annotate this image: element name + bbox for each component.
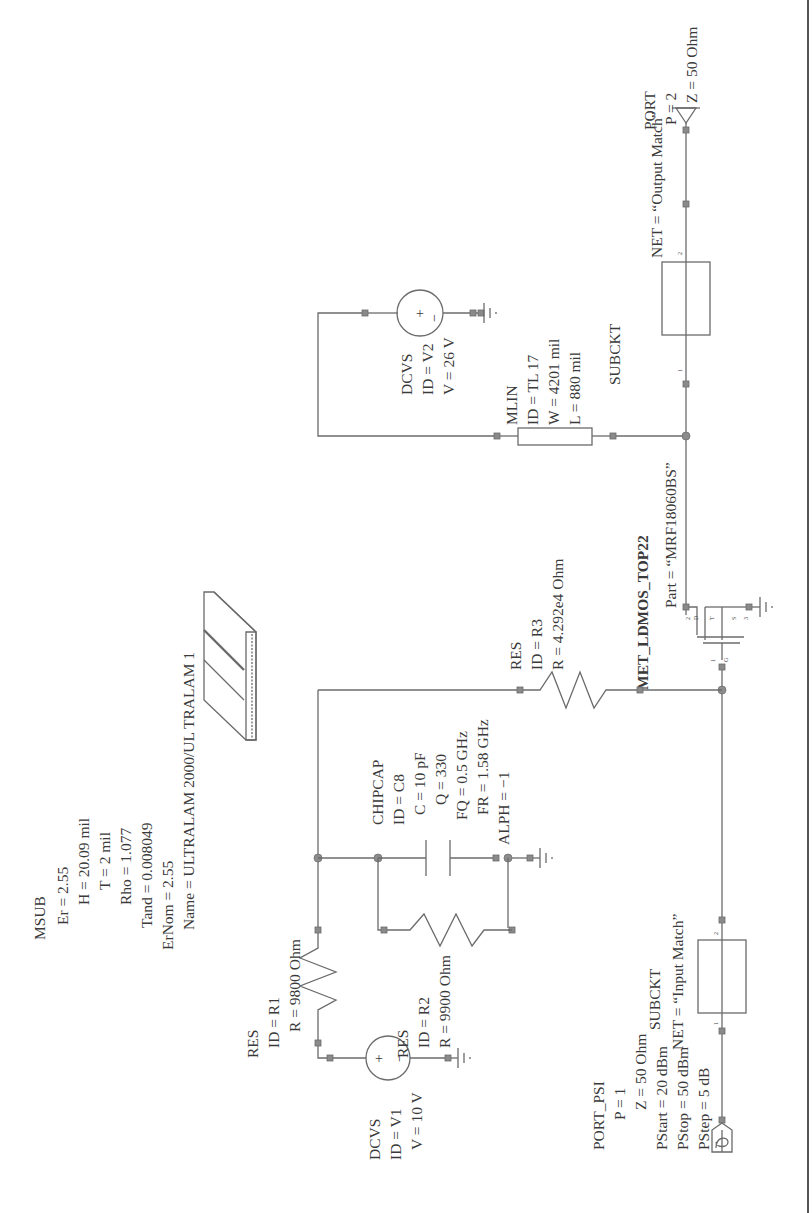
mlin-label: MLIN ID = TL 17 W = 4201 mil L = 880 mil [503,339,583,425]
svg-text:ID = R1: ID = R1 [265,997,282,1048]
msub-rho: Rho = 1.077 [117,828,134,905]
svg-text:S: S [731,617,737,620]
svg-text:ID = V1: ID = V1 [387,1108,404,1160]
svg-text:R = 9800 Ohm: R = 9800 Ohm [286,939,303,1032]
res-r3-label: RES ID = R3 R = 4.292e4 Ohm [507,559,566,670]
svg-text:RES: RES [244,1030,261,1058]
svg-text:MET_LDMOS_TOP22: MET_LDMOS_TOP22 [634,535,651,690]
schematic-canvas: MSUB Er = 2.55 H = 20.09 mil T = 2 mil R… [0,0,812,1213]
res-r2-label: RES ID = R2 R = 9900 Ohm [394,955,453,1058]
port-psi-symbol[interactable] [712,1123,732,1152]
msub-h: H = 20.09 mil [75,818,92,905]
res-r2-symbol[interactable] [387,914,512,946]
svg-text:DCVS: DCVS [366,1119,383,1160]
svg-text:2: 2 [677,252,683,255]
svg-text:Z = 50 Ohm: Z = 50 Ohm [683,27,700,103]
svg-text:Q = 330: Q = 330 [432,754,449,805]
res-r1-label: RES ID = R1 R = 9800 Ohm [244,939,303,1058]
svg-text:W = 4201 mil: W = 4201 mil [545,339,562,425]
res-r3-symbol[interactable] [523,672,640,708]
svg-text:V = 26 V: V = 26 V [440,337,457,396]
svg-text:NET = “Input Match”: NET = “Input Match” [669,914,686,1050]
svg-text:T: T [709,616,715,620]
svg-text:R = 4.292e4 Ohm: R = 4.292e4 Ohm [549,559,566,670]
svg-text:1: 1 [677,369,683,372]
svg-text:ID = TL 17: ID = TL 17 [524,354,541,425]
chipcap-label: CHIPCAP ID = C8 C = 10 pF Q = 330 FQ = 0… [369,719,512,845]
svg-text:1: 1 [710,659,716,662]
svg-text:MLIN: MLIN [503,385,520,425]
svg-text:FR = 1.58 GHz: FR = 1.58 GHz [474,719,491,815]
svg-text:L = 880 mil: L = 880 mil [566,352,583,425]
svg-text:ID = V2: ID = V2 [419,343,436,395]
minus-icon: − [427,314,442,322]
svg-text:3: 3 [743,617,749,620]
svg-text:PORT_PSI: PORT_PSI [590,1081,607,1150]
port2-symbol[interactable] [676,108,696,123]
dcvs-v1-label: DCVS ID = V1 V = 10 V [366,1092,425,1161]
gate-bias-network: + − RES ID = R1 R = 9800 Ohm DCVS ID = V… [244,690,552,1160]
subckt-in-label: SUBCKT NET = “Input Match” [646,914,686,1050]
chipcap-symbol[interactable] [426,840,450,876]
svg-text:2: 2 [713,932,719,935]
res-r1-symbol[interactable] [300,933,336,1040]
svg-text:SUBCKT: SUBCKT [606,323,623,385]
svg-text:RES: RES [394,1030,411,1058]
svg-text:DCVS: DCVS [398,354,415,395]
msub-name: Name = ULTRALAM 2000/UL TRALAM 1 [180,652,197,930]
svg-text:PStart = 20 dBm: PStart = 20 dBm [653,1046,670,1150]
svg-text:R = 9900 Ohm: R = 9900 Ohm [436,955,453,1048]
output-network: 1 2 SUBCKT NET = “Output Match” PORT P =… [606,27,710,615]
svg-text:PStop = 50 dBm: PStop = 50 dBm [674,1047,691,1150]
drain-bias-network: + − DCVS ID = V2 V = 26 V MLIN ID = TL 1… [318,290,686,445]
svg-text:ID = R2: ID = R2 [415,997,432,1048]
svg-text:SUBCKT: SUBCKT [646,968,663,1030]
ground-icon [533,848,552,868]
msub-type: MSUB [31,896,48,940]
plus-icon: + [375,1051,383,1066]
dcvs-v2-symbol[interactable]: + − [397,290,443,336]
svg-text:G: G [723,657,729,662]
plus-icon: + [416,306,424,321]
msub-t: T = 2 mil [96,832,113,890]
msub-er: Er = 2.55 [54,867,71,925]
port-psi-label: PORT_PSI P = 1 Z = 50 Ohm PStart = 20 dB… [590,1034,712,1150]
ground-icon [484,303,496,323]
msub-ernom: ErNom = 2.55 [159,861,176,950]
svg-text:Z = 50 Ohm: Z = 50 Ohm [632,1034,649,1110]
svg-text:1: 1 [713,1022,719,1025]
ground-icon [451,1048,470,1068]
svg-text:2: 2 [685,617,691,620]
svg-text:PORT: PORT [641,91,658,130]
msub-block[interactable]: MSUB Er = 2.55 H = 20.09 mil T = 2 mil R… [31,592,256,950]
svg-text:V = 10 V: V = 10 V [408,1092,425,1151]
svg-text:D: D [693,615,699,620]
substrate-icon [204,592,256,740]
transistor-label: MET_LDMOS_TOP22 Part = “MRF18060BS” [634,462,679,690]
ldmos-transistor[interactable]: 2 D T S 3 1 G [683,597,772,670]
svg-text:ID = C8: ID = C8 [390,774,407,825]
svg-text:RES: RES [507,642,524,670]
gate-network: RES ID = R3 R = 4.292e4 Ohm [318,559,726,1120]
svg-text:C = 10 pF: C = 10 pF [411,752,428,815]
ground-icon [752,597,772,617]
svg-text:FQ = 0.5 GHz: FQ = 0.5 GHz [453,731,470,820]
mlin-symbol[interactable] [518,428,592,445]
msub-tand: Tand = 0.008049 [138,822,155,928]
svg-text:ID = R3: ID = R3 [528,619,545,670]
subckt-out-label: SUBCKT NET = “Output Match” [606,111,665,385]
svg-text:NET = “Output Match”: NET = “Output Match” [648,111,665,258]
svg-text:ALPH = −1: ALPH = −1 [495,772,512,845]
svg-text:Part = “MRF18060BS”: Part = “MRF18060BS” [662,462,679,608]
svg-text:PStep = 5 dB: PStep = 5 dB [695,1068,712,1150]
svg-text:P = 2: P = 2 [662,93,679,125]
svg-text:P = 1: P = 1 [611,1088,628,1120]
svg-text:CHIPCAP: CHIPCAP [369,760,386,825]
dcvs-v2-label: DCVS ID = V2 V = 26 V [398,337,457,396]
